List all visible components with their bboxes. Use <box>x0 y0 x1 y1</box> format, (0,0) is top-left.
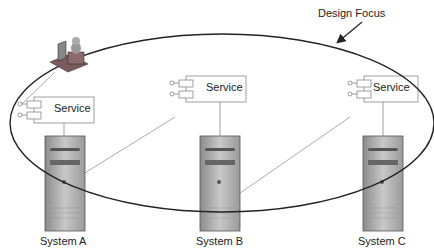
service-label-c: Service <box>373 81 410 93</box>
connector-b-c <box>230 117 350 200</box>
design-focus-label: Design Focus <box>318 7 385 19</box>
service-label-a: Service <box>54 102 91 114</box>
service-label-b: Service <box>206 81 243 93</box>
connector-a-b <box>80 117 175 176</box>
diagram-canvas <box>0 0 434 251</box>
server-tower-b-icon <box>200 136 240 231</box>
system-c-label: System C <box>358 235 406 247</box>
system-b-label: System B <box>196 235 243 247</box>
user-workstation-icon <box>50 37 88 72</box>
system-a-label: System A <box>40 235 86 247</box>
server-tower-c-icon <box>363 136 403 231</box>
focus-arrow <box>338 22 362 42</box>
